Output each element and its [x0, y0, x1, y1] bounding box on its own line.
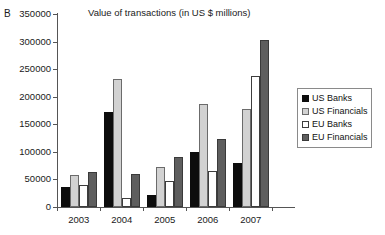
- bar: [242, 109, 251, 207]
- y-tick-mark: [53, 97, 57, 98]
- chart-figure: B Value of transactions (in US $ million…: [0, 0, 385, 235]
- x-tick-label: 2004: [111, 214, 132, 225]
- y-tick-label: 300000: [19, 37, 51, 47]
- bar: [79, 185, 88, 207]
- bar: [88, 172, 97, 207]
- legend-item: EU Banks: [302, 118, 368, 131]
- y-tick-mark: [53, 179, 57, 180]
- chart-legend: US BanksUS FinancialsEU BanksEU Financia…: [297, 88, 372, 148]
- bar: [147, 195, 156, 207]
- x-axis-line: [57, 207, 295, 208]
- bar: [260, 40, 269, 207]
- bar: [208, 171, 217, 207]
- legend-label: US Banks: [312, 93, 352, 104]
- x-tick-mark: [143, 207, 144, 211]
- y-tick-mark: [53, 42, 57, 43]
- bar: [113, 79, 122, 207]
- bar: [217, 139, 226, 207]
- x-tick-label: 2007: [240, 214, 261, 225]
- bar: [199, 104, 208, 207]
- x-tick-label: 2005: [154, 214, 175, 225]
- y-tick-label: 200000: [19, 92, 51, 102]
- x-tick-mark: [272, 207, 273, 211]
- y-tick-label: 50000: [25, 174, 51, 184]
- y-tick-mark: [53, 14, 57, 15]
- legend-label: EU Banks: [312, 119, 352, 130]
- legend-swatch-icon: [302, 134, 309, 141]
- y-tick-label: 250000: [19, 64, 51, 74]
- y-tick-label: 100000: [19, 147, 51, 157]
- legend-swatch-icon: [302, 95, 309, 102]
- bar: [251, 76, 260, 207]
- bar: [61, 187, 70, 207]
- legend-item: EU Financials: [302, 131, 368, 144]
- bar: [165, 181, 174, 207]
- legend-label: EU Financials: [312, 132, 368, 143]
- bar: [190, 152, 199, 207]
- x-tick-label: 2003: [68, 214, 89, 225]
- x-tick-mark: [186, 207, 187, 211]
- panel-label: B: [4, 8, 11, 20]
- legend-label: US Financials: [312, 106, 368, 117]
- y-tick-label: 150000: [19, 119, 51, 129]
- legend-item: US Financials: [302, 105, 368, 118]
- bar: [174, 157, 183, 207]
- bar: [131, 174, 140, 207]
- plot-area: 0500001000001500002000002500003000003500…: [57, 14, 295, 207]
- bar: [70, 175, 79, 207]
- y-tick-mark: [53, 152, 57, 153]
- bar: [122, 198, 131, 207]
- x-tick-mark: [100, 207, 101, 211]
- x-tick-label: 2006: [197, 214, 218, 225]
- x-tick-mark: [229, 207, 230, 211]
- legend-swatch-icon: [302, 108, 309, 115]
- legend-swatch-icon: [302, 121, 309, 128]
- bar: [104, 112, 113, 207]
- legend-item: US Banks: [302, 92, 368, 105]
- y-tick-label: 350000: [19, 9, 51, 19]
- x-tick-mark: [57, 207, 58, 211]
- y-tick-mark: [53, 124, 57, 125]
- y-tick-mark: [53, 69, 57, 70]
- bar: [156, 167, 165, 207]
- bar: [233, 163, 242, 207]
- y-tick-label: 0: [46, 202, 51, 212]
